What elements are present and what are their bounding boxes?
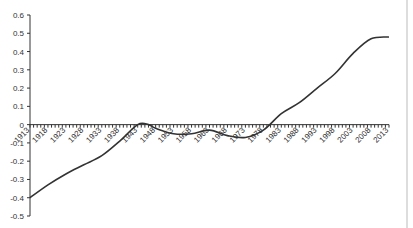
x-tick-label: 1943 — [120, 125, 139, 144]
x-tick-label: 1973 — [228, 125, 247, 144]
y-tick-label: 0.5 — [13, 29, 25, 38]
y-tick-label: -0.2 — [10, 157, 24, 166]
y-axis: 0.60.50.40.30.20.10-0.1-0.2-0.3-0.4-0.5 — [10, 11, 30, 221]
y-tick-label: -0.4 — [10, 194, 24, 203]
y-tick-label: -0.3 — [10, 175, 24, 184]
x-tick-label: 1993 — [300, 125, 319, 144]
y-tick-label: 0.6 — [13, 11, 25, 20]
x-tick-label: 1918 — [30, 125, 49, 144]
y-tick-label: 0.4 — [13, 48, 25, 57]
x-tick-label: 1928 — [66, 125, 85, 144]
y-tick-label: 0.1 — [13, 102, 25, 111]
x-axis: 1913191819231928193319381943194819531958… — [12, 125, 390, 145]
x-tick-label: 1953 — [156, 125, 175, 144]
x-tick-label: 2013 — [371, 125, 390, 144]
series-line-1 — [30, 37, 389, 198]
x-tick-label: 1923 — [48, 125, 67, 144]
x-tick-label: 2003 — [336, 125, 355, 144]
x-tick-label: 1933 — [84, 125, 103, 144]
x-tick-label: 2008 — [354, 125, 373, 144]
x-tick-label: 1988 — [282, 125, 301, 144]
line-chart: 0.60.50.40.30.20.10-0.1-0.2-0.3-0.4-0.5 … — [0, 0, 413, 228]
y-tick-label: -0.5 — [10, 212, 24, 221]
series-group — [30, 37, 389, 198]
y-tick-label: 0.3 — [13, 66, 25, 75]
y-tick-label: 0.2 — [13, 84, 25, 93]
x-tick-label: 1998 — [318, 125, 337, 144]
x-tick-label: 1963 — [192, 125, 211, 144]
